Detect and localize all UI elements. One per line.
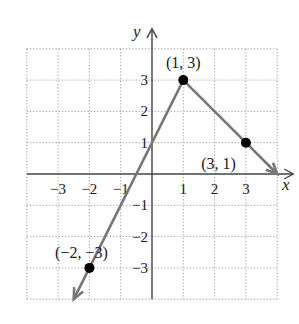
y-tick-label: 2 (141, 103, 149, 119)
x-tick-label: 2 (211, 181, 219, 197)
x-tick-label: −2 (81, 181, 97, 197)
coordinate-graph: −3−2−1123−3−2−1123 (1, 3)(3, 1)(−2, −3) … (0, 0, 299, 324)
x-tick-label: 1 (180, 181, 188, 197)
point-label: (1, 3) (166, 54, 201, 72)
point-label: (−2, −3) (55, 244, 108, 262)
y-tick-label: −2 (132, 229, 148, 245)
point-label: (3, 1) (201, 155, 236, 173)
y-axis-label: y (131, 22, 141, 41)
data-points: (1, 3)(3, 1)(−2, −3) (55, 54, 251, 273)
x-axis-label: x (281, 175, 290, 194)
y-tick-label: −3 (132, 260, 148, 276)
x-tick-label: 3 (242, 181, 250, 197)
y-tick-label: −1 (132, 197, 148, 213)
data-point (178, 75, 188, 85)
x-tick-label: −3 (50, 181, 66, 197)
y-tick-label: 1 (141, 135, 149, 151)
data-point (84, 263, 94, 273)
y-tick-label: 3 (141, 72, 149, 88)
data-point (241, 138, 251, 148)
